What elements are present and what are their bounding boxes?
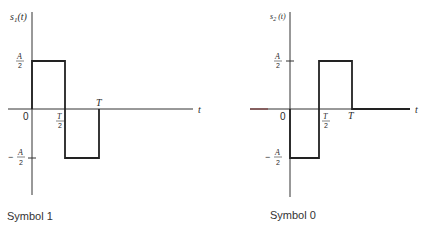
- t-axis-label: t: [198, 104, 201, 115]
- origin-label: 0: [280, 111, 286, 122]
- waveform-diagrams: s1(t) t 0 A 2 − A 2 T 2 T s2(t) t 0 A: [0, 0, 425, 231]
- neg-amp-den: 2: [19, 159, 23, 166]
- t-period-label: T: [96, 97, 103, 108]
- pos-amp-num: A: [16, 52, 22, 61]
- caption-symbol-0: Symbol 0: [270, 209, 316, 221]
- t-half-num: T: [57, 112, 62, 121]
- pos-amp-num: A: [274, 52, 280, 61]
- neg-amp-num: A: [274, 148, 280, 157]
- origin-label: 0: [23, 111, 29, 122]
- neg-amp-sign: −: [8, 152, 13, 162]
- t-axis-label: t: [415, 104, 418, 115]
- t-period-label: T: [348, 110, 355, 121]
- pos-amp-den: 2: [18, 62, 22, 69]
- pos-amp-den: 2: [276, 62, 280, 69]
- t-half-num: T: [323, 112, 328, 121]
- y-axis-label: s1(t): [10, 11, 28, 24]
- caption-symbol-1: Symbol 1: [7, 210, 53, 222]
- t-half-den: 2: [58, 122, 62, 129]
- neg-amp-den: 2: [276, 159, 280, 166]
- t-half-den: 2: [324, 122, 328, 129]
- symbol-0-waveform: s2(t) t 0 A 2 − A 2 T 2 T: [250, 12, 418, 197]
- y-axis-label: s2(t): [270, 12, 286, 22]
- neg-amp-sign: −: [265, 152, 270, 162]
- symbol-1-waveform: s1(t) t 0 A 2 − A 2 T 2 T: [8, 11, 201, 195]
- neg-amp-num: A: [17, 148, 23, 157]
